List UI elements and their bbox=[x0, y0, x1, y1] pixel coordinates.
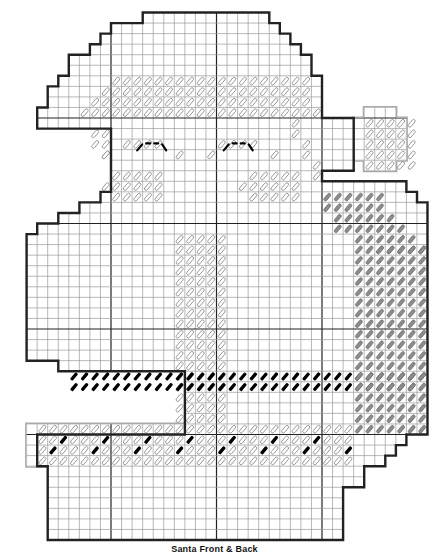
white-stitch bbox=[175, 404, 183, 413]
black-stitch bbox=[154, 382, 162, 391]
black-stitch bbox=[154, 372, 162, 381]
white-stitch bbox=[102, 182, 110, 191]
white-stitch bbox=[91, 140, 99, 149]
white-stitch bbox=[408, 140, 416, 149]
white-stitch bbox=[102, 150, 110, 159]
black-stitch bbox=[165, 382, 173, 391]
black-stitch bbox=[112, 372, 120, 381]
black-stitch bbox=[112, 382, 120, 391]
black-stitch bbox=[80, 372, 88, 381]
white-stitch bbox=[397, 161, 405, 170]
black-stitch bbox=[91, 382, 99, 391]
white-stitch bbox=[102, 140, 110, 149]
black-stitch bbox=[80, 382, 88, 391]
black-stitch bbox=[70, 382, 78, 391]
chart-caption: Santa Front & Back bbox=[0, 544, 429, 554]
black-stitch bbox=[91, 372, 99, 381]
black-stitch bbox=[175, 382, 183, 391]
white-stitch bbox=[102, 129, 110, 138]
white-stitch bbox=[175, 393, 183, 402]
black-stitch bbox=[70, 372, 78, 381]
black-stitch bbox=[144, 382, 152, 391]
black-stitch bbox=[123, 372, 131, 381]
white-stitch bbox=[408, 129, 416, 138]
white-stitch bbox=[175, 414, 183, 423]
black-stitch bbox=[102, 372, 110, 381]
black-stitch bbox=[102, 382, 110, 391]
white-stitch bbox=[408, 150, 416, 159]
black-stitch bbox=[123, 382, 131, 391]
black-stitch bbox=[133, 382, 141, 391]
black-stitch bbox=[144, 372, 152, 381]
white-stitch bbox=[91, 129, 99, 138]
black-stitch bbox=[133, 372, 141, 381]
needlepoint-chart bbox=[0, 0, 429, 557]
white-stitch bbox=[408, 161, 416, 170]
black-stitch bbox=[165, 372, 173, 381]
white-stitch bbox=[408, 119, 416, 128]
black-stitch bbox=[175, 372, 183, 381]
